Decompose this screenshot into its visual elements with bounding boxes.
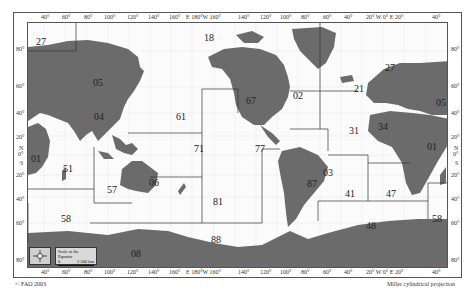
area-label-27-west: 27 — [36, 37, 46, 47]
area-label-67: 67 — [246, 96, 256, 106]
lat-tick: 60° — [451, 83, 459, 90]
lat-tick: 0° — [18, 151, 23, 158]
lon-tick: 40° — [432, 14, 440, 21]
area-label-87: 87 — [307, 179, 317, 189]
lon-tick: 60° — [323, 269, 331, 276]
lon-tick: 60° — [323, 14, 331, 21]
area-label-71: 71 — [194, 144, 204, 154]
lon-tick: 80° — [301, 269, 309, 276]
lon-tick: 100° — [280, 269, 291, 276]
compass-icon — [30, 248, 50, 264]
lon-tick: 20° W 0° E 20° — [366, 269, 403, 276]
lat-tick: 80° — [451, 257, 459, 264]
lon-tick: 80° — [84, 14, 92, 21]
area-label-31: 31 — [349, 126, 359, 136]
area-label-47: 47 — [386, 189, 396, 199]
lat-tick: 80° — [16, 46, 24, 53]
area-label-06: 06 — [149, 178, 159, 188]
lon-tick: 140° — [148, 14, 159, 21]
area-label-01-east: 01 — [427, 142, 437, 152]
area-label-88: 88 — [211, 235, 221, 245]
lon-tick: E 180°W 160° — [186, 269, 221, 276]
lon-tick: 160° — [169, 14, 180, 21]
lat-tick: 60° — [16, 83, 24, 90]
lat-tick: 40° — [16, 196, 24, 203]
area-label-04: 04 — [94, 112, 104, 122]
lat-tick: 80° — [451, 46, 459, 53]
area-label-27: 27 — [385, 63, 395, 73]
lon-tick: 40° — [344, 269, 352, 276]
lon-tick: 140° — [148, 269, 159, 276]
lon-tick: 40° — [344, 14, 352, 21]
lat-tick: 80° — [16, 257, 24, 264]
lon-tick: 80° — [301, 14, 309, 21]
copyright-notice: © FAO 2003 — [15, 281, 46, 287]
map-graphics — [28, 23, 448, 268]
lon-tick: 140° — [238, 269, 249, 276]
lat-tick: 60° — [451, 220, 459, 227]
compass-rose — [29, 247, 51, 265]
scale-end: 2 500 km — [77, 259, 94, 264]
area-label-41: 41 — [345, 189, 355, 199]
area-label-77: 77 — [255, 144, 265, 154]
area-label-03: 03 — [323, 168, 333, 178]
lon-tick: 20° W 0° E 20° — [366, 14, 403, 21]
lat-tick: 20° — [16, 172, 24, 179]
scale-line — [58, 265, 94, 266]
lat-tick: S — [20, 160, 23, 167]
scale-label: Scale at the Equator — [58, 249, 94, 259]
lon-tick: 160° — [169, 269, 180, 276]
projection-note: Miller cylindrical projection — [387, 281, 455, 287]
area-label-34: 34 — [378, 122, 388, 132]
lon-tick: E 180°W 160° — [186, 14, 221, 21]
area-label-48: 48 — [366, 221, 376, 231]
lon-tick: 40° — [432, 269, 440, 276]
lat-tick: 40° — [451, 110, 459, 117]
lon-tick: 120° — [260, 14, 271, 21]
lon-tick: 100° — [104, 269, 115, 276]
scale-bar: Scale at the Equator 0 2 500 km — [55, 247, 97, 265]
area-label-57: 57 — [107, 185, 117, 195]
lon-tick: 60° — [62, 269, 70, 276]
lon-tick: 40° — [41, 269, 49, 276]
lon-tick: 80° — [84, 269, 92, 276]
world-map: 27 18 27 05 02 21 05 04 67 61 31 34 71 7… — [27, 22, 448, 268]
lat-tick: 0° — [453, 151, 458, 158]
lon-tick: 120° — [127, 269, 138, 276]
lon-tick: 60° — [62, 14, 70, 21]
lat-tick: 20° — [451, 134, 459, 141]
lat-tick: S — [455, 160, 458, 167]
area-label-21: 21 — [354, 84, 364, 94]
lon-tick: 140° — [238, 14, 249, 21]
lon-tick: 100° — [280, 14, 291, 21]
area-label-08: 08 — [131, 249, 141, 259]
lat-tick: 20° — [451, 172, 459, 179]
lat-tick: 40° — [16, 110, 24, 117]
lat-tick: 20° — [16, 134, 24, 141]
lon-tick: 120° — [127, 14, 138, 21]
area-label-58-east: 58 — [432, 214, 442, 224]
area-label-05-east: 05 — [436, 98, 446, 108]
area-label-51-west: 51 — [63, 164, 73, 174]
scale-start: 0 — [58, 259, 60, 264]
area-label-81: 81 — [213, 197, 223, 207]
lat-tick: 40° — [451, 196, 459, 203]
area-label-02: 02 — [293, 91, 303, 101]
area-label-18: 18 — [204, 33, 214, 43]
lat-tick: 60° — [16, 220, 24, 227]
lon-tick: 100° — [104, 14, 115, 21]
area-label-61: 61 — [176, 112, 186, 122]
lon-tick: 120° — [260, 269, 271, 276]
area-label-01-west: 01 — [31, 154, 41, 164]
area-label-05-west: 05 — [93, 78, 103, 88]
area-label-58-west: 58 — [61, 214, 71, 224]
lon-tick: 40° — [41, 14, 49, 21]
